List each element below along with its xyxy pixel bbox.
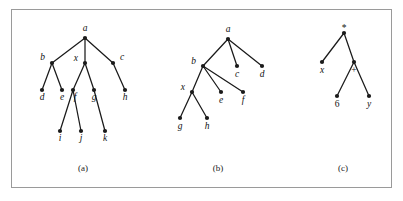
tree-node-h[interactable] <box>205 116 209 120</box>
subfigure-caption: (b) <box>213 163 224 173</box>
tree-node-label-h: h <box>205 121 210 131</box>
tree-node-label-x: x <box>319 65 325 75</box>
tree-c: *x+6y <box>319 23 372 109</box>
tree-node-label-g: g <box>92 92 97 102</box>
tree-node-label-six: 6 <box>335 99 340 109</box>
tree-node-label-f: f <box>74 92 78 102</box>
tree-edge <box>344 33 354 62</box>
tree-edge <box>192 92 207 118</box>
tree-edge <box>322 33 344 62</box>
tree-node-label-e: e <box>60 92 64 102</box>
tree-node-label-c: c <box>120 52 125 62</box>
tree-node-b[interactable] <box>50 61 54 65</box>
tree-node-label-e: e <box>219 95 223 105</box>
tree-node-label-i: i <box>59 133 62 143</box>
tree-node-x[interactable] <box>320 60 324 64</box>
tree-edge <box>52 63 62 90</box>
tree-node-x[interactable] <box>83 61 87 65</box>
tree-node-label-a: a <box>83 23 88 33</box>
tree-node-g[interactable] <box>178 116 182 120</box>
tree-edge <box>203 66 221 92</box>
tree-node-label-c: c <box>235 69 240 79</box>
tree-edge <box>73 63 85 90</box>
tree-edge <box>203 39 228 66</box>
tree-node-y[interactable] <box>367 94 371 98</box>
tree-node-plus[interactable] <box>352 60 356 64</box>
tree-node-label-x: x <box>73 53 79 63</box>
subfigure-caption: (a) <box>78 163 88 173</box>
tree-edge <box>113 63 125 90</box>
tree-node-e[interactable] <box>219 90 223 94</box>
tree-node-label-a: a <box>226 24 231 34</box>
tree-edge <box>85 63 94 90</box>
tree-node-label-plus: + <box>351 65 356 75</box>
tree-node-label-k: k <box>103 133 108 143</box>
tree-node-label-d: d <box>40 92 45 102</box>
tree-node-label-g: g <box>178 121 183 131</box>
tree-figure-canvas: abxcdefghijkabcdxefgh*x+6y(a)(b)(c) <box>0 0 403 201</box>
tree-node-x[interactable] <box>190 90 194 94</box>
tree-edge <box>85 38 113 63</box>
tree-edge <box>192 66 203 92</box>
tree-edge <box>52 38 85 63</box>
tree-node-label-b: b <box>40 52 45 62</box>
tree-node-six[interactable] <box>335 94 339 98</box>
tree-node-a[interactable] <box>83 36 87 40</box>
tree-edge <box>42 63 52 90</box>
tree-node-label-f: f <box>242 95 246 105</box>
tree-node-label-mul: * <box>342 23 347 33</box>
tree-node-label-x: x <box>180 82 186 92</box>
tree-node-c[interactable] <box>111 61 115 65</box>
tree-node-label-h: h <box>123 92 128 102</box>
tree-b: abcdxefgh <box>178 24 265 131</box>
tree-node-c[interactable] <box>235 64 239 68</box>
tree-node-label-d: d <box>260 69 265 79</box>
tree-node-label-j: j <box>78 133 83 143</box>
tree-node-f[interactable] <box>241 90 245 94</box>
tree-node-label-y: y <box>366 99 372 109</box>
tree-node-d[interactable] <box>260 64 264 68</box>
tree-node-a[interactable] <box>226 37 230 41</box>
subfigure-caption: (c) <box>338 163 348 173</box>
tree-a: abxcdefghijk <box>40 23 128 143</box>
tree-node-b[interactable] <box>201 64 205 68</box>
tree-edge <box>180 92 192 118</box>
tree-node-label-b: b <box>191 56 196 66</box>
